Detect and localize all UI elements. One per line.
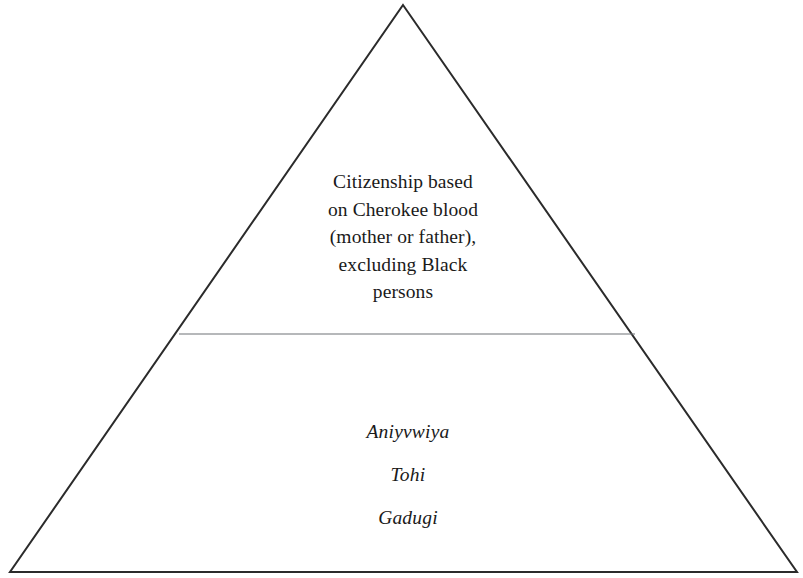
triangle-outline	[10, 5, 797, 572]
pyramid-shape	[0, 0, 803, 578]
pyramid-diagram: Citizenship based on Cherokee blood (mot…	[0, 0, 803, 578]
